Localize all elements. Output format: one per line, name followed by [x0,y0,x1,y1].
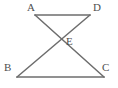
vertex-label-b: B [4,62,11,73]
vertex-label-e: E [66,36,73,47]
vertex-label-c: C [102,62,109,73]
vertex-label-d: D [93,2,101,13]
figure-canvas [0,0,118,88]
figure-background [0,0,118,88]
geometry-figure: A D B C E [0,0,118,88]
vertex-label-a: A [27,2,35,13]
